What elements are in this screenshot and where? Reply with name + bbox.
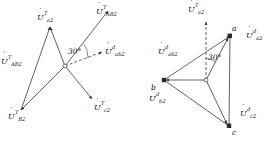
phasor-superscript: d xyxy=(247,106,250,112)
label-uc2T: UTc2 xyxy=(94,104,110,112)
phasor-subscript: a2 xyxy=(47,17,53,23)
phasor-subscript: B2 xyxy=(18,116,25,122)
origin-node-right xyxy=(204,78,208,82)
angle-label-left: 30° xyxy=(68,47,81,56)
phasor-superscript: T xyxy=(15,109,18,115)
vertex-dot-b xyxy=(162,78,166,82)
label-ua2T: UTa2 xyxy=(37,14,53,22)
vertex-label-b: b xyxy=(151,83,156,92)
label-uB2T: UTB2 xyxy=(8,113,25,121)
phasor-symbol-U: U xyxy=(37,14,44,22)
phasor-superscript: d xyxy=(165,44,168,50)
phasor-subscript: AB2 xyxy=(11,61,22,67)
edge-b-to-c xyxy=(164,80,229,126)
vector-uAB2T-upper xyxy=(65,11,108,66)
phasor-superscript: d xyxy=(156,91,159,97)
phasor-symbol-U: U xyxy=(246,32,253,40)
phasor-subscript: ab2 xyxy=(115,51,125,57)
label-uab2d-left: Udab2 xyxy=(105,48,125,56)
phasor-subscript: a2 xyxy=(256,35,262,41)
phasor-symbol-U: U xyxy=(96,8,103,16)
vector-uB2T xyxy=(21,66,65,110)
label-uAB2T-upper: UTAB2 xyxy=(96,8,117,16)
phasor-superscript: d xyxy=(112,44,115,50)
angle-label-right: 30° xyxy=(208,53,221,62)
vertex-dot-a xyxy=(228,34,232,38)
phasor-superscript: T xyxy=(195,2,198,8)
phasor-symbol-U: U xyxy=(149,95,156,103)
phasor-symbol-U: U xyxy=(188,6,195,14)
vector-uAB2T-left xyxy=(21,27,50,110)
phasor-subscript: c2 xyxy=(250,113,256,119)
angle-arc-left xyxy=(84,44,88,58)
phasor-superscript: T xyxy=(44,10,47,16)
phasor-superscript: T xyxy=(101,100,104,106)
label-uAB2T-left: UTAB2 xyxy=(1,58,22,66)
label-ub2d: Udb2 xyxy=(149,95,166,103)
phasor-symbol-U: U xyxy=(94,104,101,112)
phasor-superscript: T xyxy=(8,54,11,60)
phasor-symbol-U: U xyxy=(1,58,8,66)
left-diagram-group xyxy=(21,11,108,110)
vertex-label-a: a xyxy=(232,24,236,33)
vertex-label-c: c xyxy=(232,128,236,137)
phasor-subscript: ab2 xyxy=(168,51,178,57)
phasor-symbol-U: U xyxy=(105,48,112,56)
phasor-symbol-U: U xyxy=(240,110,247,118)
phasor-superscript: d xyxy=(253,28,256,34)
phasor-subscript: AB2 xyxy=(106,11,117,17)
phasor-subscript: a2 xyxy=(198,9,204,15)
vector-uc2T xyxy=(65,66,92,99)
phasor-subscript: c2 xyxy=(104,107,110,113)
right-diagram-group xyxy=(162,22,232,128)
phasor-symbol-U: U xyxy=(8,113,15,121)
label-ua2T-right: UTa2 xyxy=(188,6,204,14)
phasor-subscript: b2 xyxy=(159,98,166,104)
phasor-symbol-U: U xyxy=(158,48,165,56)
vertex-dot-c xyxy=(227,124,231,128)
phasor-diagram-figure: UTa2 UTAB2 UTAB2 Udab2 UTB2 UTc2 30° UTa… xyxy=(0,0,277,145)
label-uab2d-right: Udab2 xyxy=(158,48,178,56)
edge-a-to-c xyxy=(229,36,230,126)
vector-ua2T xyxy=(50,27,65,66)
phasor-superscript: T xyxy=(103,4,106,10)
label-ua2d: Uda2 xyxy=(246,32,262,40)
origin-node-left xyxy=(63,64,67,68)
label-uc2d: Udc2 xyxy=(240,110,256,118)
